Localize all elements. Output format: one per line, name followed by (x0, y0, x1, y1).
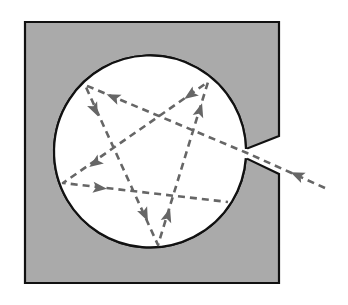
arrow-icon (288, 167, 305, 183)
circular-cavity (54, 55, 246, 247)
cavity-interior (54, 55, 246, 247)
optical-cavity-diagram (0, 0, 348, 305)
